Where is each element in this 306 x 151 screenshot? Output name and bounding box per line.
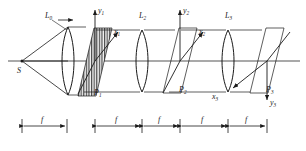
dim-label-f-4: f bbox=[201, 115, 205, 124]
lens-L0-leader bbox=[52, 20, 73, 30]
axes-P3 bbox=[233, 32, 290, 100]
dimension-labels: f f f f f bbox=[41, 115, 249, 124]
optics-diagram: S L0 y1 x1 P1 L2 bbox=[0, 0, 306, 151]
lens-L2-label: L2 bbox=[138, 11, 146, 21]
dimension-line bbox=[22, 119, 267, 133]
dim-label-f-1: f bbox=[41, 115, 45, 124]
plane-P1-label: P1 bbox=[93, 88, 102, 98]
dim-label-f-2: f bbox=[115, 115, 119, 124]
plane-P3-label: P3 bbox=[265, 85, 274, 95]
figure-canvas: S L0 y1 x1 P1 L2 bbox=[0, 0, 306, 151]
axis-y2-label: y2 bbox=[182, 6, 190, 16]
axis-x2-label: x2 bbox=[198, 27, 206, 37]
axis-y1-label: y1 bbox=[97, 6, 105, 16]
source-label: S bbox=[17, 66, 21, 75]
axis-x3-label: x3 bbox=[211, 92, 219, 102]
dim-label-f-3: f bbox=[158, 115, 162, 124]
lens-L3-label: L3 bbox=[224, 11, 232, 21]
axes-P2 bbox=[163, 10, 203, 93]
source-rays bbox=[21, 27, 69, 95]
axis-x1-label: x1 bbox=[113, 27, 121, 37]
dim-label-f-5: f bbox=[245, 115, 249, 124]
plane-P2-label: P2 bbox=[178, 85, 187, 95]
axis-y3-label: y3 bbox=[269, 98, 277, 108]
lens-L0-label: L0 bbox=[44, 11, 52, 21]
